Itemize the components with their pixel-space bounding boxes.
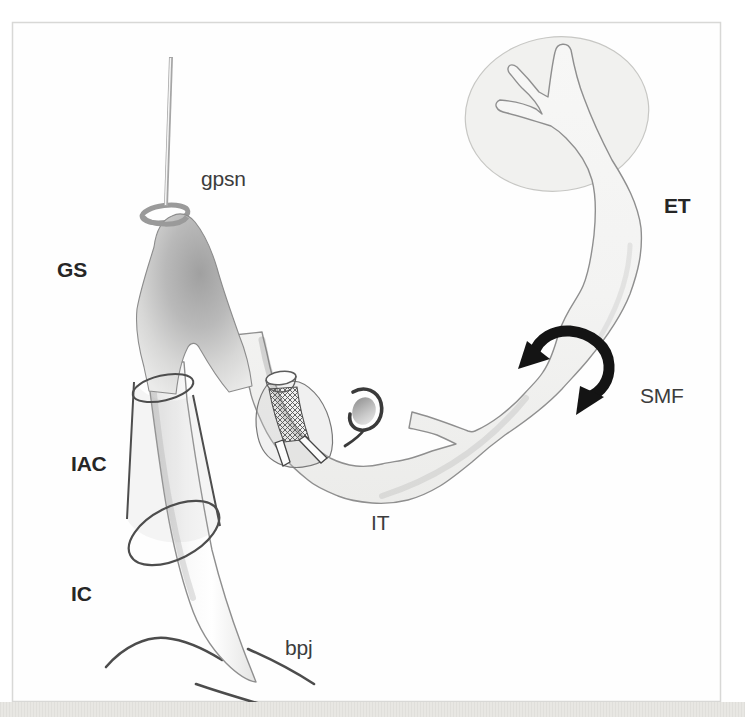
label-bpj: bpj	[285, 637, 312, 658]
label-et: ET	[664, 195, 690, 216]
label-iac: IAC	[71, 453, 107, 474]
label-gs: GS	[57, 259, 87, 280]
label-gpsn: gpsn	[201, 168, 246, 189]
label-it: IT	[371, 512, 389, 533]
label-ic: IC	[71, 583, 92, 604]
page-texture-band	[0, 702, 745, 717]
label-smf: SMF	[640, 385, 684, 406]
diagram-canvas	[0, 0, 745, 717]
anatomy-figure: gpsn GS ET SMF IAC IT IC bpj	[0, 0, 745, 717]
